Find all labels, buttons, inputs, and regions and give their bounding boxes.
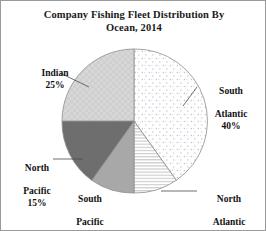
slice-label-north-pacific-line-1: North bbox=[25, 163, 49, 173]
slice-label-south-pacific-percent: 10% bbox=[59, 229, 121, 231]
slice-label-indian-name: Indian bbox=[42, 68, 69, 78]
slice-label-north-atlantic-percent: 10% bbox=[197, 229, 261, 231]
slice-label-north-pacific-percent: 15% bbox=[7, 198, 67, 209]
slice-label-north-atlantic-line-1: North bbox=[217, 194, 241, 204]
slice-label-indian-percent: 25% bbox=[25, 80, 85, 91]
slice-label-north-atlantic: North Atlantic 10% bbox=[197, 183, 261, 231]
slice-label-south-atlantic-line-2: Atlantic bbox=[215, 109, 248, 119]
slice-label-south-pacific-line-2: Pacific bbox=[76, 217, 103, 227]
slice-label-north-pacific-line-2: Pacific bbox=[23, 186, 50, 196]
slice-label-south-atlantic: South Atlantic 40% bbox=[201, 75, 261, 143]
slice-label-south-atlantic-line-1: South bbox=[219, 86, 243, 96]
slice-label-indian: Indian 25% bbox=[25, 57, 85, 103]
chart-figure: Company Fishing Fleet Distribution By Oc… bbox=[0, 0, 266, 231]
slice-label-north-pacific: North Pacific 15% bbox=[7, 152, 67, 220]
slice-label-south-atlantic-percent: 40% bbox=[201, 121, 261, 132]
slice-label-south-pacific-line-1: South bbox=[78, 194, 102, 204]
slice-label-south-pacific: South Pacific 10% bbox=[59, 183, 121, 231]
slice-label-north-atlantic-line-2: Atlantic bbox=[213, 217, 246, 227]
